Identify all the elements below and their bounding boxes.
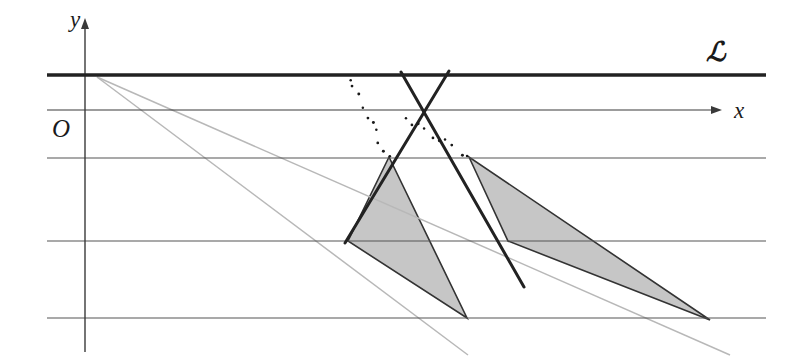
dotted-line-dot (423, 127, 426, 130)
dotted-line-dot (357, 92, 360, 95)
x-axis-arrowhead (711, 106, 722, 114)
dotted-line-dot (444, 138, 447, 141)
dotted-line-dot (432, 137, 435, 140)
dotted-line-dot (375, 128, 378, 131)
dotted-line-dot (411, 124, 414, 127)
dotted-line-dot (376, 142, 379, 145)
dotted-line-dot (461, 154, 464, 157)
gray-rays (97, 77, 730, 355)
dotted-line-dot (372, 121, 375, 124)
dotted-line-dot (382, 150, 385, 153)
dotted-line-dot (438, 139, 441, 142)
dotted-line-dot (417, 122, 420, 125)
left-shaded-triangle (348, 157, 467, 318)
right-shaded-triangle (469, 157, 710, 320)
dotted-line-dot (349, 79, 352, 82)
dotted-line-dot (389, 155, 392, 158)
dotted-construction-lines (349, 79, 468, 158)
dotted-line-dot (450, 144, 453, 147)
shaded-regions (348, 157, 710, 320)
y-axis-arrowhead (81, 18, 89, 29)
dotted-line-dot (362, 107, 365, 110)
dotted-line-dot (351, 85, 354, 88)
dotted-line-dot (367, 117, 370, 120)
dotted-line-dot (405, 117, 408, 120)
geometry-figure: y x O ℒ (0, 0, 812, 358)
dotted-line-dot (466, 155, 469, 158)
figure-canvas (0, 0, 812, 358)
